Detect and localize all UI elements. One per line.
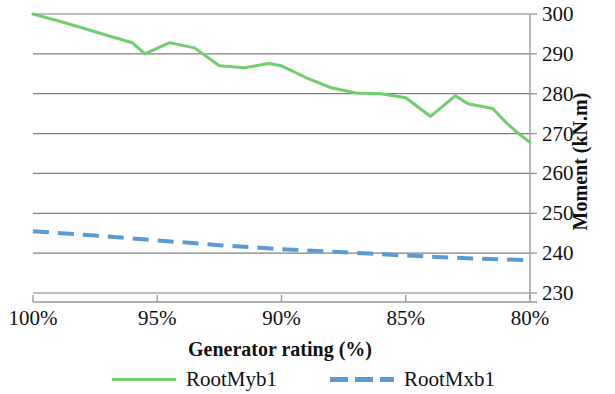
line-chart: 230240250260270280290300 100%95%90%85%80… <box>0 0 615 394</box>
legend-swatch-dashed-line <box>330 372 394 386</box>
dash-segment-glyph <box>355 377 373 382</box>
dash-segment-glyph <box>330 377 348 382</box>
x-axis-tick-label: 100% <box>0 306 78 331</box>
legend-entry-rootmxb1: RootMxb1 <box>330 366 495 392</box>
x-axis-tick-label: 90% <box>237 306 327 331</box>
plot-area <box>0 0 615 394</box>
dash-segment-glyph <box>380 377 394 382</box>
legend-label-rootmxb1: RootMxb1 <box>404 367 495 392</box>
solid-line-glyph <box>112 378 176 381</box>
series-line-rootmyb1 <box>33 14 530 142</box>
y-axis-title-container: Moment (kN.m) <box>560 20 600 300</box>
legend-label-rootmyb1: RootMyb1 <box>186 367 277 392</box>
x-axis-tick-label: 80% <box>485 306 575 331</box>
y-axis-title: Moment (kN.m) <box>569 42 592 282</box>
x-axis-title: Generator rating (%) <box>0 338 560 361</box>
legend-entry-rootmyb1: RootMyb1 <box>112 366 277 392</box>
series-line-rootmxb1 <box>33 231 530 260</box>
chart-legend: RootMyb1 RootMxb1 <box>0 366 560 394</box>
x-axis-tick-label: 85% <box>361 306 451 331</box>
x-axis-tick-label: 95% <box>112 306 202 331</box>
legend-swatch-solid-line <box>112 372 176 386</box>
